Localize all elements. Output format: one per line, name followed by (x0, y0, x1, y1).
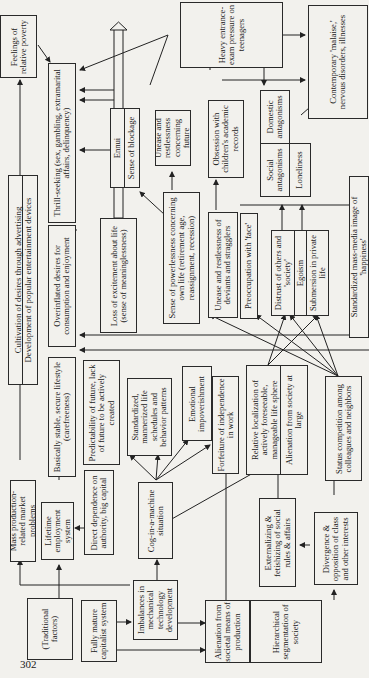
node-thrill-seeking: Thrill-seeking (sex, gambling, extramari… (48, 63, 76, 223)
node-relative-localization: Relative localization of actively forese… (246, 365, 308, 475)
node-mass-production: Mass production-related market problems (10, 480, 36, 562)
node-sense-powerlessness: Sense of powerlessness concerning own li… (163, 192, 200, 324)
node-fully-mature-capitalist: Fully mature capitalist system (81, 600, 117, 662)
node-standardized-media: Standardized mass-media image of 'happin… (349, 176, 369, 338)
node-predictability: Predictability of future, lack of future… (83, 360, 120, 465)
node-externalizing: Externalizing & fetishizing of social ru… (259, 498, 296, 587)
node-distrust: Distrust of others and 'society' (271, 230, 295, 316)
node-forfeiture-independence: Forfeiture of independence in work (212, 376, 239, 474)
node-sense-blockage: Sense of blockage (124, 108, 140, 188)
node-preoccupation-face: Preoccupation with 'face' (240, 213, 258, 319)
divider (22, 175, 23, 385)
node-status-competition: Status competition among colleagues and … (325, 376, 362, 481)
node-lifetime-employment: Lifetime employment system (41, 502, 74, 560)
node-emotional-impoverishment: Emotional impoverishment (182, 366, 212, 441)
node-unease-deviants: Unease and restlessness of deviants and … (208, 212, 238, 318)
node-divergence: Divergence & opposition of class and oth… (314, 512, 358, 585)
node-obsession-children: Obsession with children's academic recor… (208, 100, 244, 178)
node-feelings-poverty: Feelings of relative poverty (0, 15, 37, 78)
node-domestic-antagonisms: Domestic antagonisms (260, 90, 290, 144)
node-traditional-factors: (Traditional factors) (27, 598, 73, 660)
node-submersion: Submersion in private life (306, 230, 329, 316)
node-unease-future: Unease and restlessness concerning futur… (155, 110, 191, 166)
page-number: 302 (20, 658, 37, 670)
divider (280, 365, 281, 475)
node-cultivation-development: Cultivation of desires through advertisi… (8, 175, 38, 385)
node-loss-excitement: Loss of excitement about life (sense of … (100, 218, 137, 333)
node-overinflated-desires: Overinflated desires for consumption and… (48, 225, 76, 347)
node-alienation-production: Alienation from societal means of produc… (205, 600, 250, 663)
node-direct-dependence: Direct dependence on authority, big capi… (84, 470, 114, 555)
node-heavy-exam-pressure: Heavy entrance-exam pressure on teenager… (180, 2, 283, 68)
node-imbalances: Imbalances in mechanical technology deve… (133, 580, 178, 640)
node-social-antagonisms: Social antagonisms (260, 143, 290, 197)
node-contemporary-malaise: Contemporary 'malaise,' nervous disorder… (308, 5, 368, 119)
book-page: (Traditional factors) Mass production-re… (0, 0, 369, 678)
node-hierarchical-segmentation: Hierarchical segmentation of society (250, 600, 322, 663)
node-cog-in-machine: Cog-in-a-machine situation (138, 482, 173, 559)
node-basically-stable: Basically stable, secure lifestyle (care… (48, 357, 76, 477)
node-standardized-life: Standardized, mannerized life schedules … (127, 378, 172, 456)
node-loneliness: Loneliness (289, 143, 311, 197)
